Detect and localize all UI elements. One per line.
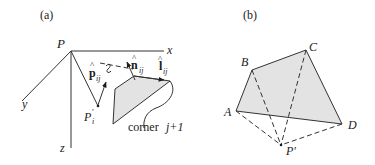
z-axis-label: z: [59, 141, 65, 155]
arrow-p-ij: [98, 82, 106, 105]
vector-l-label: ^ l ij: [158, 54, 168, 76]
point-p-prime: [280, 144, 283, 147]
squiggle-mark: [106, 64, 111, 72]
svg-text:p: p: [89, 66, 96, 80]
vector-p-label: ^ p ij: [89, 60, 101, 83]
y-axis: [22, 51, 71, 101]
vertex-a-label: A: [223, 105, 232, 119]
vertex-d-label: D: [347, 118, 357, 132]
corner-label: corner j+1: [128, 120, 183, 134]
vector-n-label: ^ n ij: [131, 53, 144, 75]
point-pi: [97, 105, 100, 108]
point-pi-label: P ′ i: [83, 107, 94, 126]
face-polygon: [113, 76, 170, 124]
svg-text:P: P: [83, 110, 92, 124]
svg-text:ij: ij: [96, 74, 101, 83]
svg-text:ij: ij: [163, 67, 168, 76]
svg-text:ij: ij: [139, 66, 144, 75]
svg-text:i: i: [92, 117, 94, 126]
point-p-prime-label: P′: [285, 144, 296, 158]
panel-b-label: (b): [243, 8, 257, 22]
panel-a: (a) P x y z P ′ i: [21, 8, 183, 155]
figure: (a) P x y z P ′ i: [0, 0, 375, 165]
x-axis-label: x: [166, 43, 173, 57]
origin-label: P: [56, 36, 65, 51]
svg-text:j+1: j+1: [164, 120, 183, 134]
vertex-b-label: B: [241, 55, 249, 69]
svg-text:n: n: [131, 58, 138, 72]
panel-a-label: (a): [40, 8, 53, 22]
y-axis-label: y: [21, 97, 28, 111]
svg-text:′: ′: [92, 107, 94, 117]
vertex-c-label: C: [309, 40, 318, 54]
panel-b: (b) A B C D P′: [223, 8, 357, 158]
dash-d-p: [281, 124, 342, 145]
svg-text:corner: corner: [128, 120, 159, 134]
